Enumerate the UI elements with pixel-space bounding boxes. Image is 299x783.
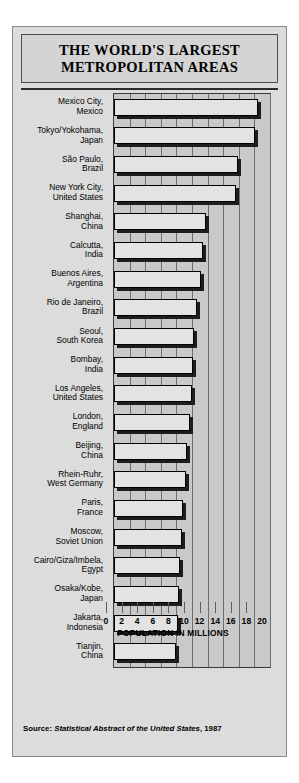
bar-row bbox=[114, 328, 198, 346]
bar bbox=[114, 328, 194, 345]
gridline bbox=[176, 94, 177, 667]
bar bbox=[114, 156, 238, 173]
bar bbox=[114, 242, 203, 259]
category-label-line-1: Buenos Aires, bbox=[51, 268, 103, 278]
category-label-line-1: Calcutta, bbox=[70, 240, 103, 250]
source-title: Statistical Abstract of the United State… bbox=[54, 724, 200, 733]
category-label-line-2: South Korea bbox=[56, 335, 103, 345]
gridline bbox=[223, 94, 224, 667]
category-label: Shanghai,China bbox=[21, 212, 107, 231]
bar bbox=[114, 213, 206, 230]
category-label-line-2: China bbox=[81, 650, 103, 660]
axis-tick-label: 10 bbox=[176, 616, 192, 626]
category-label-line-1: Osaka/Kobe, bbox=[55, 583, 103, 593]
bar bbox=[114, 357, 193, 374]
axis-tick-label: 18 bbox=[238, 616, 254, 626]
axis-tick bbox=[246, 602, 263, 613]
category-label-line-2: England bbox=[72, 421, 103, 431]
axis-tick bbox=[106, 602, 123, 613]
bar-row bbox=[114, 500, 187, 518]
category-label-line-2: United States bbox=[53, 392, 103, 402]
category-label: Paris,France bbox=[21, 498, 107, 517]
category-label-line-1: Beijing, bbox=[76, 440, 103, 450]
bar-row bbox=[114, 242, 207, 260]
gridline bbox=[208, 94, 209, 667]
chart-card: THE WORLD'S LARGEST METROPOLITAN AREAS M… bbox=[12, 26, 287, 757]
bar-row bbox=[114, 529, 186, 547]
category-label-line-2: Argentina bbox=[67, 278, 103, 288]
category-label-line-1: Tianjin, bbox=[76, 641, 103, 651]
axis-tick bbox=[184, 602, 201, 613]
bar-row bbox=[114, 443, 191, 461]
gridline bbox=[270, 94, 271, 667]
category-label: Buenos Aires,Argentina bbox=[21, 269, 107, 288]
category-label-line-1: Paris, bbox=[82, 497, 103, 507]
category-label: São Paulo,Brazil bbox=[21, 155, 107, 174]
category-label: New York City,United States bbox=[21, 183, 107, 202]
category-label: Los Angeles,United States bbox=[21, 384, 107, 403]
category-label-line-1: Mexico City, bbox=[58, 96, 103, 106]
category-label-line-2: West Germany bbox=[47, 478, 103, 488]
plot-area bbox=[113, 93, 271, 668]
category-label-line-2: India bbox=[85, 364, 103, 374]
bar bbox=[114, 99, 258, 116]
category-label-line-2: India bbox=[85, 249, 103, 259]
bar-row bbox=[114, 156, 242, 174]
category-label-line-1: Cairo/Giza/Imbela, bbox=[34, 555, 103, 565]
category-label: Seoul,South Korea bbox=[21, 327, 107, 346]
page-title: THE WORLD'S LARGEST METROPOLITAN AREAS bbox=[59, 42, 240, 76]
bar bbox=[114, 557, 180, 574]
x-axis-title: POPULATION IN MILLIONS bbox=[73, 628, 273, 638]
category-label-line-2: Soviet Union bbox=[56, 536, 104, 546]
category-label: Mexico City,Mexico bbox=[21, 97, 107, 116]
axis-tick-label: 0 bbox=[98, 616, 114, 626]
title-line-1: THE WORLD'S LARGEST bbox=[59, 42, 240, 58]
axis-tick bbox=[153, 602, 170, 613]
category-label: Bombay,India bbox=[21, 355, 107, 374]
category-label-line-1: Shanghai, bbox=[65, 211, 103, 221]
source-prefix: Source: bbox=[23, 724, 54, 733]
bar-row bbox=[114, 127, 259, 145]
bar-row bbox=[114, 643, 180, 661]
axis-tick bbox=[215, 602, 232, 613]
category-label-line-2: China bbox=[81, 221, 103, 231]
category-label-line-2: France bbox=[77, 507, 103, 517]
gridline bbox=[130, 94, 131, 667]
category-label-line-1: Moscow, bbox=[70, 526, 103, 536]
category-label-line-1: London, bbox=[73, 411, 103, 421]
bar-row bbox=[114, 213, 210, 231]
axis-tick-label: 16 bbox=[223, 616, 239, 626]
axis-tick bbox=[137, 602, 154, 613]
category-label-line-1: Rhein-Ruhr, bbox=[58, 469, 103, 479]
bar bbox=[114, 500, 183, 517]
category-label-line-1: Tokyo/Yokohama, bbox=[37, 125, 103, 135]
bar bbox=[114, 471, 186, 488]
axis-tick-label: 14 bbox=[207, 616, 223, 626]
bar bbox=[114, 643, 176, 660]
source-suffix: , 1987 bbox=[200, 724, 222, 733]
axis-tick bbox=[200, 602, 217, 613]
bar bbox=[114, 271, 201, 288]
category-label-line-1: Los Angeles, bbox=[55, 383, 103, 393]
bar-row bbox=[114, 557, 184, 575]
gridline bbox=[254, 94, 255, 667]
axis-tick-label: 20 bbox=[254, 616, 270, 626]
category-label-line-2: Japan bbox=[80, 135, 103, 145]
category-label: Moscow,Soviet Union bbox=[21, 527, 107, 546]
category-label-line-2: Mexico bbox=[76, 106, 103, 116]
axis-tick-label: 6 bbox=[145, 616, 161, 626]
bar-row bbox=[114, 271, 205, 289]
bar-row bbox=[114, 471, 190, 489]
category-label-line-2: Brazil bbox=[82, 163, 103, 173]
category-label: Tianjin,China bbox=[21, 642, 107, 661]
title-line-2: METROPOLITAN AREAS bbox=[61, 59, 238, 75]
gridline bbox=[161, 94, 162, 667]
bar-row bbox=[114, 299, 201, 317]
category-label: Osaka/Kobe,Japan bbox=[21, 584, 107, 603]
category-label-column: Mexico City,MexicoTokyo/Yokohama,JapanSã… bbox=[21, 93, 107, 668]
category-label: Cairo/Giza/Imbela,Egypt bbox=[21, 556, 107, 575]
bar-row bbox=[114, 414, 194, 432]
bar bbox=[114, 414, 190, 431]
category-label-line-2: United States bbox=[53, 192, 103, 202]
category-label-line-1: New York City, bbox=[49, 182, 103, 192]
